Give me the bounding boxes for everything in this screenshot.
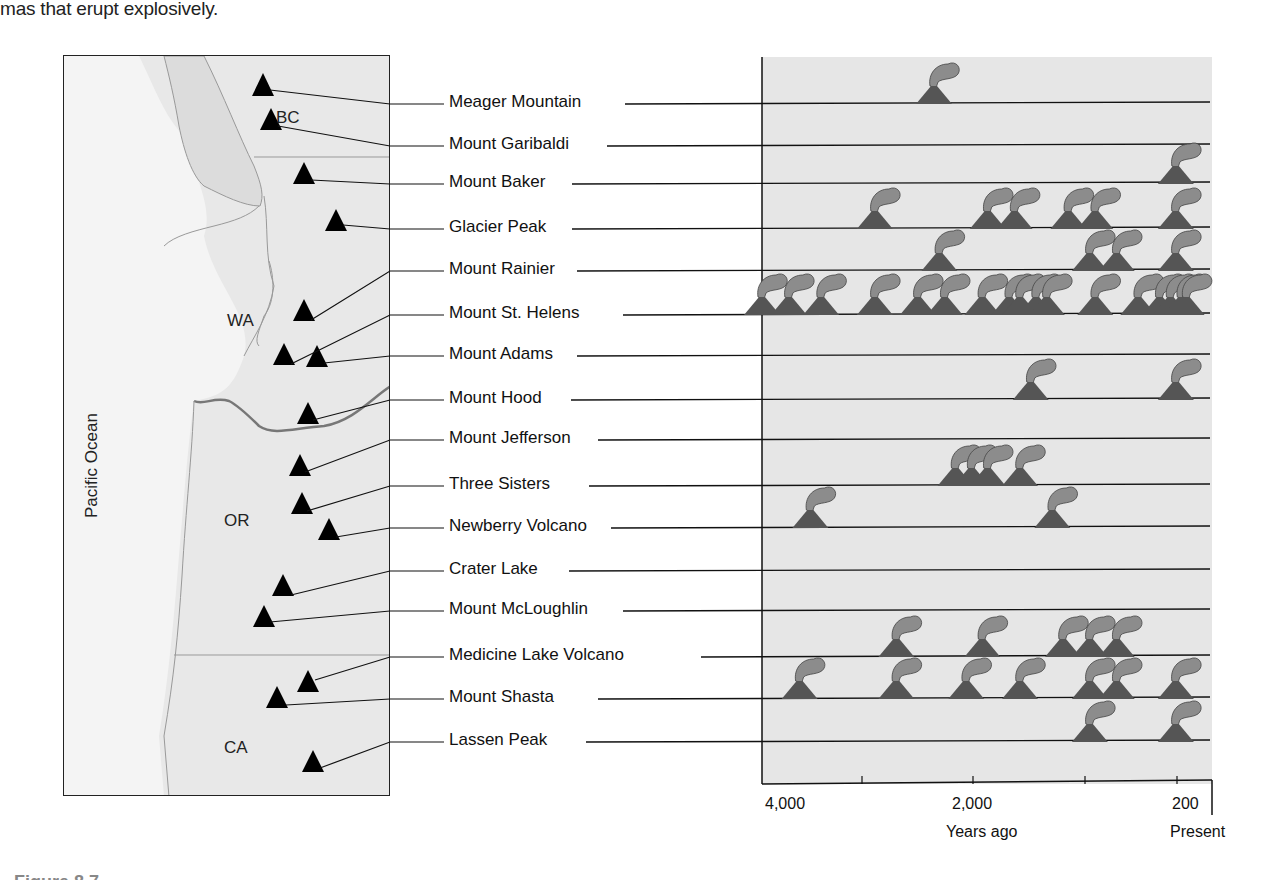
volcano-label: Mount Hood — [449, 388, 542, 408]
tick-label-200: 200 — [1172, 795, 1199, 813]
volcano-label: Mount Adams — [449, 344, 553, 364]
volcano-label: Lassen Peak — [449, 730, 547, 750]
volcano-label: Medicine Lake Volcano — [449, 645, 624, 665]
tick-label-4000: 4,000 — [765, 795, 805, 813]
volcano-label: Mount St. Helens — [449, 303, 579, 323]
volcano-label: Three Sisters — [449, 474, 550, 494]
volcano-label: Mount Shasta — [449, 687, 554, 707]
region-label-bc: BC — [276, 108, 300, 128]
region-label-wa: WA — [227, 311, 254, 331]
volcano-label: Meager Mountain — [449, 92, 581, 112]
volcano-label: Glacier Peak — [449, 217, 546, 237]
volcano-label: Newberry Volcano — [449, 516, 587, 536]
volcano-markers — [252, 73, 347, 772]
ocean-label: Pacific Ocean — [82, 413, 102, 518]
intro-text: mas that erupt explosively. — [0, 0, 218, 20]
eruption-timeline-plot — [762, 57, 1212, 784]
present-label: Present — [1170, 823, 1225, 841]
tick-label-2000: 2,000 — [952, 795, 992, 813]
volcano-label: Crater Lake — [449, 559, 538, 579]
region-label-ca: CA — [224, 738, 248, 758]
region-label-or: OR — [224, 511, 250, 531]
volcano-label: Mount Jefferson — [449, 428, 571, 448]
volcano-label: Mount Rainier — [449, 259, 555, 279]
volcano-label: Mount McLoughlin — [449, 599, 588, 619]
map-panel: BC WA OR CA Pacific Ocean — [63, 55, 390, 796]
volcano-label: Mount Baker — [449, 172, 545, 192]
coastline-map — [64, 56, 390, 796]
x-axis-title: Years ago — [946, 823, 1017, 841]
figure-caption-fragment: Figure 8.7 — [14, 872, 99, 880]
volcano-label: Mount Garibaldi — [449, 134, 569, 154]
